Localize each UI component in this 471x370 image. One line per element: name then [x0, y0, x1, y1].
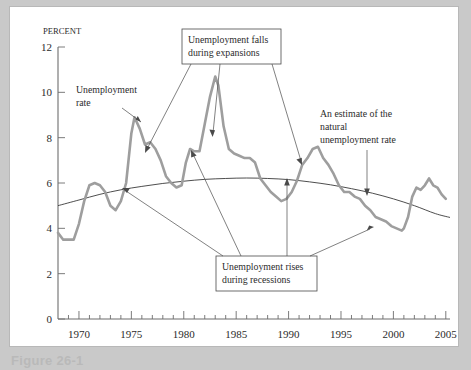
x-tick-label: 1990	[278, 328, 301, 340]
y-axis-title: PERCENT	[43, 26, 82, 36]
expansions-arrowhead-3	[296, 158, 302, 165]
natural-rate-label-line1: An estimate of the	[320, 108, 393, 119]
y-tick-label: 0	[47, 313, 53, 325]
unemployment-rate-label-line1: Unemployment	[76, 84, 137, 95]
recessions-leader-1	[126, 191, 223, 256]
x-axis-ticks	[68, 311, 445, 319]
series-group	[58, 76, 450, 239]
annotation-expansions: Unemployment falls during expansions	[145, 29, 302, 165]
x-tick-label: 1970	[68, 328, 91, 340]
expansions-callout-line1: Unemployment falls	[188, 34, 268, 45]
y-axis-ticks	[58, 47, 65, 319]
natural-rate-label-line2: natural	[320, 121, 347, 132]
expansions-arrowhead-1	[145, 145, 151, 153]
unemployment-chart: 024681012 PERCENT 1970197519801985199019…	[10, 7, 458, 346]
expansions-callout-line2: during expansions	[188, 47, 260, 58]
expansions-arrowhead-2	[209, 130, 215, 137]
figure-caption: Figure 26-1	[11, 353, 84, 368]
annotation-natural-rate: An estimate of the natural unemployment …	[320, 108, 397, 196]
expansions-leader-3	[272, 64, 301, 161]
x-tick-label: 1995	[330, 328, 353, 340]
y-tick-label: 4	[47, 222, 53, 234]
y-tick-label: 12	[41, 41, 52, 53]
annotation-layer: Unemployment rate An estimate of the nat…	[76, 29, 397, 291]
natural-rate-label-line3: unemployment rate	[320, 134, 397, 145]
unemployment-rate-label-line2: rate	[76, 97, 91, 108]
unemployment-rate-line	[58, 76, 446, 239]
figure-container: 024681012 PERCENT 1970197519801985199019…	[0, 0, 471, 370]
y-tick-label: 8	[47, 132, 53, 144]
recessions-callout-line1: Unemployment rises	[222, 261, 304, 272]
x-axis-tick-labels: 19701975198019851990199520002005	[68, 328, 457, 340]
y-axis-tick-labels: 024681012	[41, 41, 53, 325]
y-tick-label: 2	[47, 268, 53, 280]
x-tick-label: 1980	[173, 328, 196, 340]
natural-rate-line	[58, 178, 450, 217]
recessions-callout-line2: during recessions	[222, 274, 290, 285]
annotation-unemployment-rate: Unemployment rate	[76, 84, 141, 122]
annotation-recessions: Unemployment rises during recessions	[122, 150, 374, 291]
y-tick-label: 6	[47, 177, 53, 189]
figure-caption-bar: Figure 26-1	[9, 352, 459, 370]
x-tick-label: 1985	[225, 328, 248, 340]
y-axis: 024681012 PERCENT	[41, 26, 82, 325]
recessions-leader-4	[310, 229, 370, 256]
recessions-arrowhead-4	[367, 225, 374, 230]
x-tick-label: 2005	[435, 328, 458, 340]
x-tick-label: 1975	[120, 328, 143, 340]
chart-panel: 024681012 PERCENT 1970197519801985199019…	[9, 6, 459, 347]
x-axis: 19701975198019851990199520002005	[58, 311, 457, 340]
expansions-leader-1	[147, 64, 191, 149]
y-tick-label: 10	[41, 86, 53, 98]
x-tick-label: 2000	[382, 328, 405, 340]
